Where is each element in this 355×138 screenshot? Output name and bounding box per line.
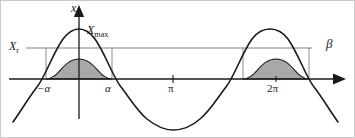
amplitude-label-subscript: max (94, 30, 108, 39)
tick-label-pi: π (168, 83, 174, 94)
x-axis-label: x (71, 2, 76, 14)
plot-canvas (1, 1, 355, 138)
threshold-label-subscript: r (16, 46, 19, 55)
beta-axis-label: β (326, 37, 332, 50)
beta-axis-arrow-icon (333, 74, 346, 85)
tick-label-two-pi: 2π (267, 83, 278, 94)
threshold-label: Xr (9, 40, 19, 56)
sinusoid-threshold-figure: x β Xr Xmax −α α π 2π (0, 0, 355, 138)
amplitude-label: Xmax (87, 24, 108, 40)
tick-label-minus-alpha: −α (37, 83, 50, 94)
tick-label-alpha: α (105, 83, 111, 94)
